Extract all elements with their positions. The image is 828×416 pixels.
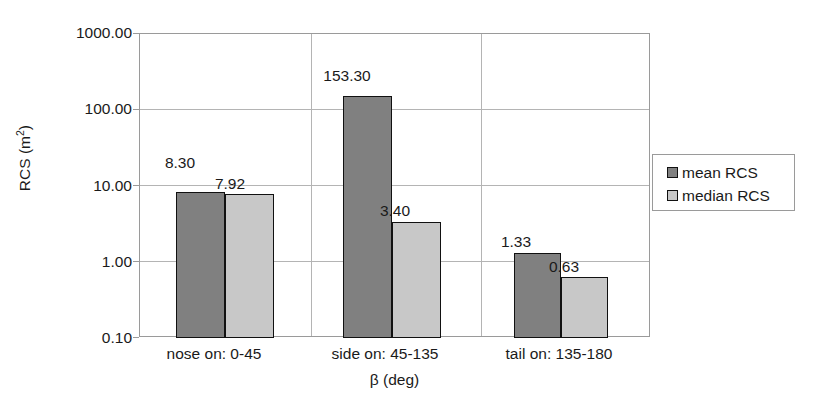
x-tick-label-tail-on: tail on: 135-180 bbox=[484, 345, 634, 363]
y-tick-label-1: 1.00 bbox=[38, 254, 132, 270]
data-label-median-tail-on: 0.63 bbox=[524, 259, 604, 275]
data-label-mean-nose-on: 8.30 bbox=[140, 155, 220, 171]
y-axis-title: RCS (m2) bbox=[14, 98, 34, 218]
legend-swatch-mean-icon bbox=[667, 167, 678, 178]
y-tick-label-1000: 1000.00 bbox=[38, 25, 132, 41]
y-axis-tick-labels: 1000.00 100.00 10.00 1.00 0.10 bbox=[34, 0, 132, 416]
data-label-mean-side-on: 153.30 bbox=[302, 68, 392, 84]
legend-swatch-median-icon bbox=[667, 190, 678, 201]
bar-median-nose-on[interactable] bbox=[225, 194, 274, 338]
data-label-mean-tail-on: 1.33 bbox=[476, 234, 556, 250]
bar-median-side-on[interactable] bbox=[392, 222, 441, 338]
y-axis-title-superscript: 2 bbox=[14, 130, 26, 136]
y-tick-label-0.1: 0.10 bbox=[38, 330, 132, 346]
legend-label-mean-rcs: mean RCS bbox=[682, 165, 758, 181]
data-label-median-side-on: 3.40 bbox=[355, 203, 435, 219]
rcs-bar-chart-figure: 1000.00 100.00 10.00 1.00 0.10 RCS (m2) bbox=[0, 0, 828, 416]
bar-median-tail-on[interactable] bbox=[561, 277, 608, 338]
category-separator-2 bbox=[481, 34, 482, 336]
x-axis-title: β (deg) bbox=[139, 371, 650, 389]
y-tick-label-10: 10.00 bbox=[38, 178, 132, 194]
legend-label-median-rcs: median RCS bbox=[682, 188, 770, 204]
y-tick-label-100: 100.00 bbox=[38, 101, 132, 117]
legend-entry-mean-rcs[interactable]: mean RCS bbox=[667, 162, 794, 183]
y-axis-title-text: RCS (m bbox=[16, 136, 33, 191]
x-tick-label-side-on: side on: 45-135 bbox=[312, 345, 458, 363]
y-axis-title-paren: ) bbox=[16, 125, 33, 130]
gridline-100 bbox=[140, 109, 649, 110]
legend: mean RCS median RCS bbox=[652, 154, 795, 211]
data-label-median-nose-on: 7.92 bbox=[190, 176, 270, 192]
bar-mean-nose-on[interactable] bbox=[176, 192, 225, 338]
x-tick-label-nose-on: nose on: 0-45 bbox=[144, 345, 284, 363]
legend-entry-median-rcs[interactable]: median RCS bbox=[667, 185, 794, 206]
y-tick-mark-0.1 bbox=[133, 337, 139, 338]
